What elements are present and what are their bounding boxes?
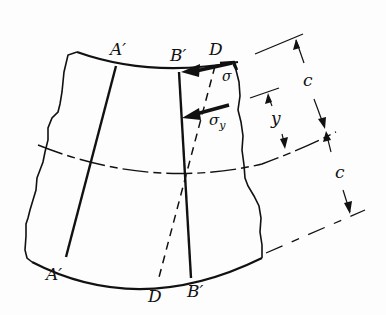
label-dim-c-upper: c [303,70,313,90]
label-sigma: σ [222,68,232,84]
section-a-line [66,66,116,257]
section-b-line [179,72,191,278]
label-d-top: D [208,39,223,59]
label-b-bottom: B′ [186,281,203,301]
diagram-svg: A′ B′ D σ σy y c c A′ D B′ [0,0,386,315]
left-broken-edge [25,52,77,262]
label-a-top: A′ [108,39,126,59]
label-sigma-y: σy [209,111,226,132]
dim-c-lower-arrow-bottom-icon [344,201,352,214]
ext-line-bottom-dashed [266,210,365,253]
ext-line-y-top [250,88,279,98]
curved-beam-diagram: A′ B′ D σ σy y c c A′ D B′ [0,0,386,315]
sigma-y-arrowhead-icon [182,108,201,120]
right-broken-edge [233,64,262,258]
label-b-top: B′ [169,45,186,65]
label-dim-c-lower: c [335,162,345,182]
label-d-bottom: D [147,286,162,306]
label-a-bottom: A′ [44,264,62,284]
dim-c-upper-arrow-bottom-icon [318,117,326,129]
dim-y-arrow-bottom-icon [280,137,288,149]
bottom-edge [32,258,262,289]
neutral-axis-line [38,132,336,174]
sigma-arrowhead-icon [181,64,200,77]
label-dim-y: y [270,108,281,128]
